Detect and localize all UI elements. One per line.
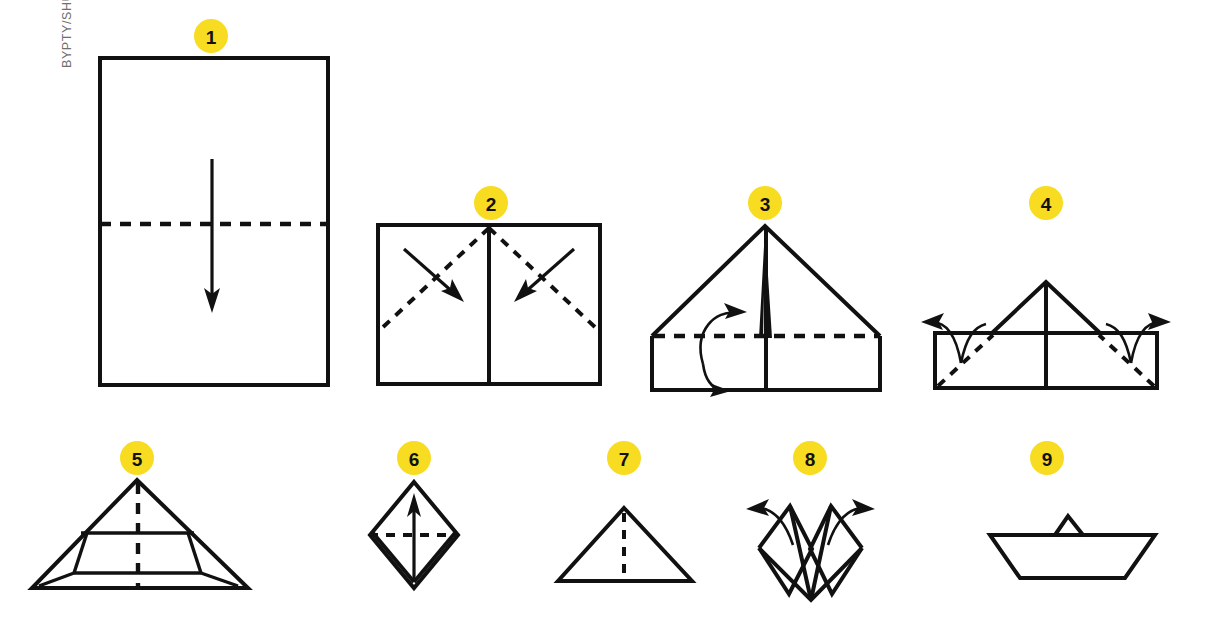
step-badge-3[interactable]: 3 <box>748 186 782 220</box>
step-badge-4[interactable]: 4 <box>1029 186 1063 220</box>
step-badge-2-label: 2 <box>486 194 497 215</box>
step-badge-8[interactable]: 8 <box>793 441 827 475</box>
origami-diagram-svg: 1 2 3 4 5 6 7 <box>0 0 1211 621</box>
step-8-drawing <box>746 499 875 600</box>
step-badge-2[interactable]: 2 <box>474 186 508 220</box>
step-6-drawing <box>369 482 459 588</box>
step-2-drawing <box>378 225 600 384</box>
step-badge-5-label: 5 <box>132 449 143 470</box>
step-badge-4-label: 4 <box>1041 194 1052 215</box>
origami-instruction-figure: BYPTY/SHUTTERSTOCK <box>0 0 1211 621</box>
step-badge-9[interactable]: 9 <box>1030 441 1064 475</box>
step-badge-1-label: 1 <box>206 27 217 48</box>
step-1-drawing <box>100 58 328 385</box>
step-badge-7[interactable]: 7 <box>607 441 641 475</box>
step-badge-6-label: 6 <box>409 449 420 470</box>
step-badge-5[interactable]: 5 <box>120 441 154 475</box>
step-badge-6[interactable]: 6 <box>397 441 431 475</box>
step-5-drawing <box>32 480 248 588</box>
step-7-drawing <box>558 508 692 581</box>
step-badge-1[interactable]: 1 <box>194 19 228 53</box>
step-4-drawing <box>921 282 1171 388</box>
step-9-drawing <box>990 516 1155 578</box>
step-badge-3-label: 3 <box>760 194 771 215</box>
step-3-drawing <box>652 226 880 397</box>
step-badge-9-label: 9 <box>1042 449 1053 470</box>
step-badge-8-label: 8 <box>805 449 816 470</box>
step-badge-7-label: 7 <box>619 449 630 470</box>
step-badges: 1 2 3 4 5 6 7 <box>120 19 1064 475</box>
